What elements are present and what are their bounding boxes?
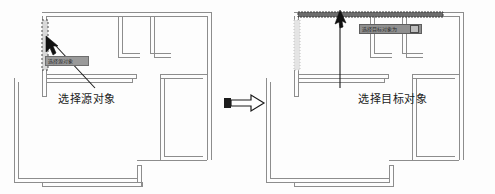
figure-stage: 选择源对象 选择源对象 xyxy=(0,0,495,194)
wall-room-b-inner xyxy=(154,16,171,57)
wall-outer-top xyxy=(42,12,211,160)
tooltip-target-badge xyxy=(410,25,419,33)
caption-target: 选择目标对象 xyxy=(358,90,427,106)
wall-right-upper-inner xyxy=(412,74,455,78)
wall-room-b-inner xyxy=(406,16,423,57)
wall-mid-horizontal xyxy=(46,74,136,78)
wall-bottom-left xyxy=(42,165,141,186)
panel-source xyxy=(0,0,240,194)
wall-room-a xyxy=(118,16,140,57)
wall-room-a-inner xyxy=(374,16,392,53)
wall-room-b xyxy=(150,16,171,53)
highlighted-target-wall xyxy=(298,12,443,17)
wall-right-vertical-inner xyxy=(164,78,203,156)
dimmed-source-wall xyxy=(294,20,300,70)
wall-room-b xyxy=(402,16,423,53)
floorplan-source xyxy=(0,0,240,194)
wall-bottom-left xyxy=(294,165,393,186)
wall-right-upper-inner xyxy=(160,74,203,78)
wall-right-vertical xyxy=(160,74,207,160)
tooltip-target: 选择目标对象为 xyxy=(359,24,422,34)
wall-outer-top-inner xyxy=(46,16,207,160)
caption-source: 选择源对象 xyxy=(58,90,116,106)
wall-outer-top xyxy=(294,12,463,160)
tooltip-source: 选择源对象 xyxy=(45,56,89,66)
tooltip-target-label: 选择目标对象为 xyxy=(362,25,397,33)
wall-room-a xyxy=(370,16,392,57)
wall-room-a-inner xyxy=(122,16,140,53)
wall-mid-horizontal-inner xyxy=(298,78,384,82)
wall-outer-top-inner xyxy=(298,16,459,160)
wall-mid-horizontal xyxy=(298,74,388,78)
wall-right-vertical xyxy=(412,74,459,160)
